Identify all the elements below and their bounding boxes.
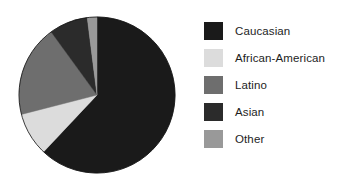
legend-item-asian[interactable]: Asian [204, 103, 350, 121]
legend-swatch-caucasian [204, 22, 223, 40]
pie-slice-group [19, 17, 175, 173]
legend-swatch-african-american [204, 49, 223, 67]
legend-label-asian: Asian [235, 106, 264, 119]
legend-label-caucasian: Caucasian [235, 25, 290, 38]
pie-plot-area [0, 0, 196, 194]
legend-swatch-asian [204, 103, 223, 121]
pie-chart-figure: Caucasian African-American Latino Asian … [0, 0, 350, 194]
legend-label-other: Other [235, 133, 264, 146]
legend-swatch-other [204, 130, 223, 148]
chart-legend: Caucasian African-American Latino Asian … [204, 22, 350, 172]
legend-label-latino: Latino [235, 79, 267, 92]
legend-item-latino[interactable]: Latino [204, 76, 350, 94]
legend-item-caucasian[interactable]: Caucasian [204, 22, 350, 40]
legend-item-other[interactable]: Other [204, 130, 350, 148]
legend-label-african-american: African-American [235, 52, 325, 65]
pie-chart-svg [0, 0, 196, 194]
legend-item-african-american[interactable]: African-American [204, 49, 350, 67]
legend-swatch-latino [204, 76, 223, 94]
